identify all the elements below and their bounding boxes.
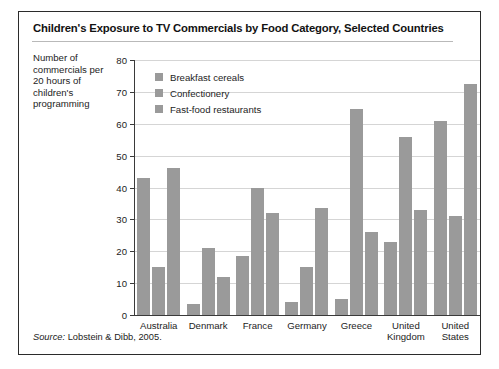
bar-group-germany [282, 59, 331, 315]
tick-mark [130, 315, 134, 316]
y-tick-label: 20 [116, 246, 127, 257]
y-tick-label: 40 [116, 182, 127, 193]
x-axis-label: France [233, 320, 282, 331]
bar-group-france [233, 59, 282, 315]
bar [464, 84, 477, 315]
bar [350, 109, 363, 315]
y-axis-title: Number of commercials per 20 hours of ch… [33, 52, 113, 110]
bar-group-denmark [183, 59, 232, 315]
bar [187, 304, 200, 315]
bar [285, 302, 298, 315]
bar-group-united-kingdom [381, 59, 430, 315]
y-tick-label: 60 [116, 118, 127, 129]
x-axis-label: Germany [282, 320, 331, 331]
bar [434, 121, 447, 315]
x-axis-label: UnitedStates [431, 320, 480, 343]
y-tick-label: 10 [116, 278, 127, 289]
bar [202, 248, 215, 315]
plot-area: 01020304050607080 Breakfast cerealsConfe… [134, 60, 480, 316]
page-title: Children's Exposure to TV Commercials by… [33, 22, 444, 34]
bar-group-greece [332, 59, 381, 315]
bar [365, 232, 378, 315]
bar [217, 277, 230, 315]
y-tick-label: 80 [116, 55, 127, 66]
bar [399, 137, 412, 316]
bar-group-australia [134, 59, 183, 315]
bar [251, 188, 264, 316]
bar [152, 267, 165, 315]
x-axis-label: Australia [134, 320, 183, 331]
y-tick-label: 0 [122, 310, 127, 321]
y-tick-label: 30 [116, 214, 127, 225]
figure-frame: Children's Exposure to TV Commercials by… [18, 11, 481, 355]
bar [414, 210, 427, 315]
bar [167, 168, 180, 315]
source-note: Source: Lobstein & Dibb, 2005. [33, 332, 162, 342]
bar-group-united-states [431, 59, 480, 315]
x-axis-label: UnitedKingdom [381, 320, 430, 343]
bar [137, 178, 150, 315]
x-axis-label: Greece [332, 320, 381, 331]
bar [335, 299, 348, 315]
bar [315, 208, 328, 315]
y-tick-label: 50 [116, 150, 127, 161]
title-divider [32, 41, 453, 42]
source-text: Lobstein & Dibb, 2005. [68, 332, 162, 342]
bar [266, 213, 279, 315]
bar [300, 267, 313, 315]
y-tick-label: 70 [116, 86, 127, 97]
source-prefix: Source: [33, 332, 65, 342]
x-axis-line [134, 315, 480, 316]
bar [236, 256, 249, 315]
bar [384, 242, 397, 315]
x-axis-label: Denmark [183, 320, 232, 331]
bar [449, 216, 462, 315]
